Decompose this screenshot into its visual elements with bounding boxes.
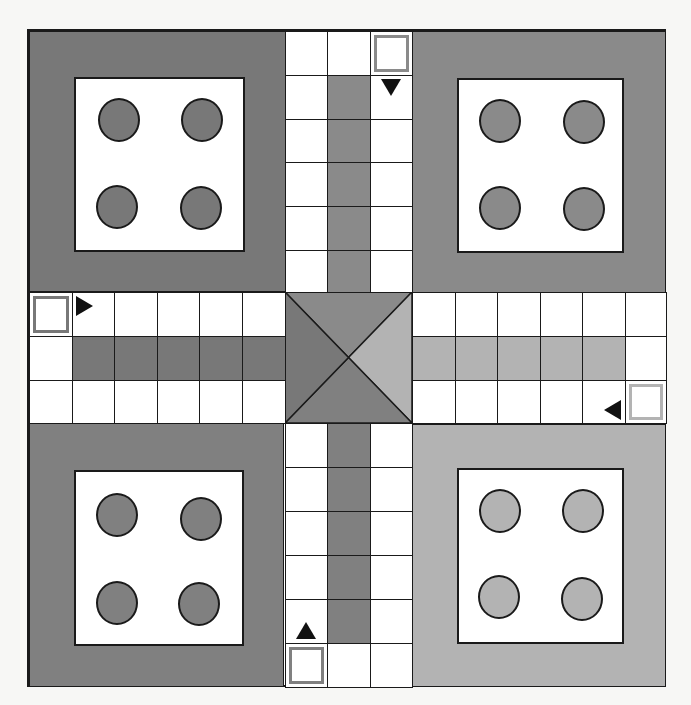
track-cell-right-r7-c12[interactable] — [540, 336, 584, 381]
track-cell-left-r7-c1[interactable] — [72, 336, 116, 381]
token-bottom-right-1[interactable] — [479, 489, 521, 533]
track-cell-bottom-r10-c7[interactable] — [327, 467, 371, 512]
track-cell-left-r6-c3[interactable] — [157, 292, 201, 337]
track-cell-top-r5-c8[interactable] — [370, 250, 413, 293]
start-arrow-top-icon — [381, 79, 401, 96]
token-bottom-left-4[interactable] — [178, 582, 220, 626]
track-cell-bottom-r9-c6[interactable] — [285, 423, 328, 468]
home-top-right — [412, 31, 666, 294]
track-cell-top-r1-c7[interactable] — [327, 75, 371, 120]
token-top-right-4[interactable] — [563, 187, 605, 231]
track-cell-bottom-r14-c8[interactable] — [370, 643, 413, 688]
track-cell-right-r6-c12[interactable] — [540, 292, 584, 337]
track-cell-left-r8-c4[interactable] — [199, 380, 243, 424]
track-cell-right-r7-c10[interactable] — [455, 336, 499, 381]
track-cell-top-r3-c7[interactable] — [327, 162, 371, 207]
token-top-left-3[interactable] — [96, 185, 138, 229]
track-cell-right-r6-c9[interactable] — [412, 292, 456, 337]
track-cell-top-r1-c6[interactable] — [285, 75, 328, 120]
track-cell-top-r4-c8[interactable] — [370, 206, 413, 251]
track-cell-bottom-r11-c8[interactable] — [370, 511, 413, 556]
track-cell-left-r7-c4[interactable] — [199, 336, 243, 381]
track-cell-bottom-r12-c6[interactable] — [285, 555, 328, 600]
track-cell-left-r8-c2[interactable] — [114, 380, 158, 424]
start-arrow-bottom-icon — [296, 622, 316, 639]
track-cell-bottom-r13-c8[interactable] — [370, 599, 413, 644]
track-cell-left-r8-c1[interactable] — [72, 380, 116, 424]
start-arrow-right-icon — [604, 400, 621, 420]
token-bottom-left-1[interactable] — [96, 493, 138, 537]
track-cell-left-r6-c2[interactable] — [114, 292, 158, 337]
token-bottom-left-3[interactable] — [96, 581, 138, 625]
track-cell-top-r4-c7[interactable] — [327, 206, 371, 251]
home-bottom-right — [412, 424, 666, 687]
track-cell-right-r8-c9[interactable] — [412, 380, 456, 424]
token-bottom-right-3[interactable] — [478, 575, 520, 619]
yard-bottom-right — [457, 468, 624, 644]
track-cell-right-r6-c13[interactable] — [582, 292, 626, 337]
track-cell-left-r7-c5[interactable] — [242, 336, 286, 381]
track-cell-top-r2-c8[interactable] — [370, 119, 413, 164]
track-cell-right-r8-c14[interactable] — [625, 380, 667, 424]
track-cell-top-r5-c6[interactable] — [285, 250, 328, 293]
track-cell-left-r8-c0[interactable] — [29, 380, 73, 424]
track-cell-bottom-r9-c8[interactable] — [370, 423, 413, 468]
center-finish — [285, 292, 412, 423]
yard-top-right — [457, 78, 624, 253]
track-cell-left-r6-c0[interactable] — [29, 292, 73, 337]
center-triangles — [285, 292, 412, 423]
track-cell-left-r7-c3[interactable] — [157, 336, 201, 381]
track-cell-top-r3-c8[interactable] — [370, 162, 413, 207]
token-top-left-1[interactable] — [98, 98, 140, 142]
track-cell-right-r8-c12[interactable] — [540, 380, 584, 424]
track-cell-right-r8-c11[interactable] — [497, 380, 541, 424]
track-cell-right-r8-c10[interactable] — [455, 380, 499, 424]
track-cell-bottom-r14-c6[interactable] — [285, 643, 328, 688]
yard-bottom-left — [74, 470, 244, 646]
token-bottom-right-2[interactable] — [562, 489, 604, 533]
track-cell-top-r0-c6[interactable] — [285, 31, 328, 76]
ludo-board — [27, 29, 666, 687]
track-cell-left-r6-c5[interactable] — [242, 292, 286, 337]
track-cell-bottom-r12-c8[interactable] — [370, 555, 413, 600]
track-cell-bottom-r12-c7[interactable] — [327, 555, 371, 600]
track-cell-left-r6-c4[interactable] — [199, 292, 243, 337]
token-top-right-2[interactable] — [563, 100, 605, 144]
home-top-left — [29, 31, 286, 292]
track-cell-bottom-r10-c6[interactable] — [285, 467, 328, 512]
track-cell-top-r5-c7[interactable] — [327, 250, 371, 293]
track-cell-left-r7-c2[interactable] — [114, 336, 158, 381]
home-bottom-left — [29, 422, 284, 687]
track-cell-top-r2-c7[interactable] — [327, 119, 371, 164]
track-cell-left-r8-c3[interactable] — [157, 380, 201, 424]
track-cell-top-r0-c7[interactable] — [327, 31, 371, 76]
track-cell-top-r0-c8[interactable] — [370, 31, 413, 76]
token-top-right-3[interactable] — [479, 186, 521, 230]
track-cell-bottom-r10-c8[interactable] — [370, 467, 413, 512]
track-cell-bottom-r14-c7[interactable] — [327, 643, 371, 688]
track-cell-bottom-r11-c6[interactable] — [285, 511, 328, 556]
track-cell-bottom-r9-c7[interactable] — [327, 423, 371, 468]
track-cell-top-r4-c6[interactable] — [285, 206, 328, 251]
track-cell-right-r6-c10[interactable] — [455, 292, 499, 337]
token-bottom-left-2[interactable] — [180, 497, 222, 541]
token-top-right-1[interactable] — [479, 99, 521, 143]
track-cell-left-r8-c5[interactable] — [242, 380, 286, 424]
track-cell-right-r6-c11[interactable] — [497, 292, 541, 337]
yard-top-left — [74, 77, 245, 252]
track-cell-right-r7-c14[interactable] — [625, 336, 667, 381]
start-arrow-left-icon — [76, 296, 93, 316]
track-cell-right-r7-c11[interactable] — [497, 336, 541, 381]
token-top-left-2[interactable] — [181, 98, 223, 142]
track-cell-left-r7-c0[interactable] — [29, 336, 73, 381]
track-cell-bottom-r11-c7[interactable] — [327, 511, 371, 556]
track-cell-right-r7-c9[interactable] — [412, 336, 456, 381]
token-bottom-right-4[interactable] — [561, 577, 603, 621]
track-cell-right-r7-c13[interactable] — [582, 336, 626, 381]
track-cell-bottom-r13-c7[interactable] — [327, 599, 371, 644]
track-cell-right-r6-c14[interactable] — [625, 292, 667, 337]
token-top-left-4[interactable] — [180, 186, 222, 230]
track-cell-top-r2-c6[interactable] — [285, 119, 328, 164]
track-cell-top-r3-c6[interactable] — [285, 162, 328, 207]
